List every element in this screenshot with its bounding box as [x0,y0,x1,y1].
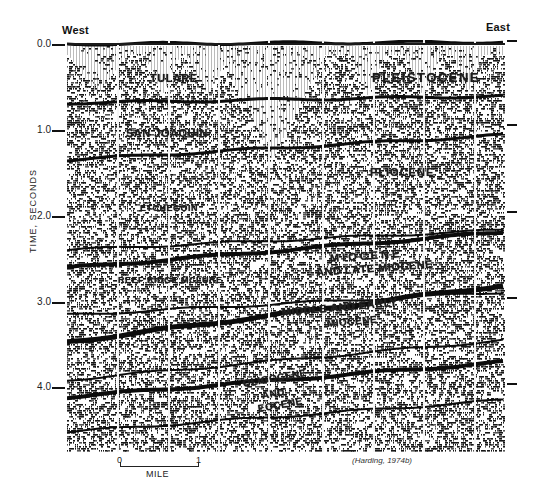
seismic-section-panel [67,40,505,452]
y-tick-label-1: 1.0 [21,124,51,135]
west-label: West [62,24,89,36]
scale-bar-unit-label: MILE [146,469,169,479]
scale-bar-line [120,466,199,467]
y-tick-mark-right-4 [507,383,517,385]
y-tick-mark-right-2 [507,211,517,213]
figure-credit: (Harding, 1974b) [352,456,412,465]
y-axis-title: TIME, SECONDS [28,166,38,256]
unit-label-pleistocene: PLEISTOCENE [372,70,480,85]
y-tick-label-3: 3.0 [21,296,51,307]
unit-label-tulare: TULARE [150,72,198,84]
y-tick-mark-left-1 [52,130,65,132]
unit-label-pliocene: PLIOCENE [370,166,434,178]
seismic-section-figure: West East 0.0 1.0 2.0 3.0 4.0 TIME, SECO… [0,0,544,499]
y-tick-mark-right-1 [507,124,517,126]
y-tick-label-0: 0.0 [21,38,51,49]
unit-label-san-joaquin: SAN JOAQUIN [126,127,208,139]
y-tick-mark-right-3 [507,297,517,299]
east-label: East [486,21,510,33]
y-tick-mark-left-0 [52,44,65,46]
scale-bar-right-cap [198,462,199,467]
unit-label-etchegoin: ETCHEGOIN [140,203,198,213]
scale-bar-left-cap [120,462,121,467]
y-tick-mark-left-2 [52,216,65,218]
unit-label-reef-ridge-mclure: REEF RIDGE MCLURE [118,275,223,285]
y-tick-mark-left-4 [52,387,65,389]
y-tick-label-4: 4.0 [21,381,51,392]
y-tick-mark-right-0 [507,40,517,42]
y-tick-mark-left-3 [52,302,65,304]
